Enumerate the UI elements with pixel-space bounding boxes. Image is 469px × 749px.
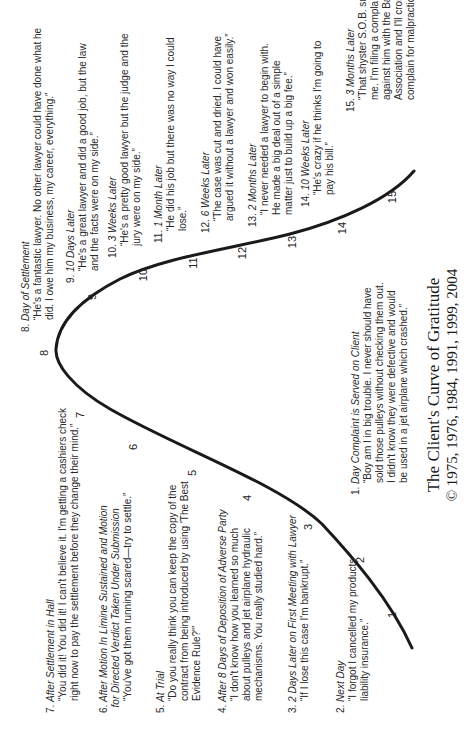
annotation-timing: After 8 Days of Deposition of Adverse Pa… bbox=[217, 509, 228, 702]
annotation-heading: 1. Day Complaint is Served on Client bbox=[350, 282, 362, 495]
annotation-quote: “You did it! You did it! I can't believe… bbox=[57, 408, 81, 713]
annotation-number: 14. bbox=[300, 190, 311, 207]
annotation-item: 2. Next Day“I forgot I cancelled my prod… bbox=[335, 559, 371, 713]
curve-point-number: 11 bbox=[188, 257, 199, 268]
annotation-timing: Day of Settlement bbox=[20, 241, 31, 320]
annotation-number: 7. bbox=[45, 702, 56, 713]
annotation-number: 10. bbox=[107, 241, 118, 258]
annotation-heading: 15. 3 Months Later bbox=[345, 0, 357, 112]
annotation-timing: Day Complaint is Served on Client bbox=[350, 332, 361, 484]
annotation-heading: 2. Next Day bbox=[335, 559, 347, 713]
annotation-timing: 6 Weeks Later bbox=[200, 152, 211, 216]
annotation-heading: 9. 10 Days Later bbox=[65, 43, 77, 283]
annotation-heading: 14. 10 Weeks Later bbox=[300, 41, 312, 207]
annotation-heading: 12. 6 Weeks Later bbox=[200, 33, 212, 233]
annotation-quote: “Do you really think you can keep the co… bbox=[167, 481, 203, 713]
annotation-number: 6. bbox=[98, 702, 109, 713]
diagram-title: The Client's Curve of Gratitude bbox=[425, 265, 443, 505]
annotation-item: 6. After Motion In Limine Sustained and … bbox=[98, 493, 134, 713]
annotation-quote: “I forgot I cancelled my products liabil… bbox=[347, 559, 371, 713]
annotation-number: 9. bbox=[65, 272, 76, 283]
annotation-item: 5. At Trial“Do you really think you can … bbox=[155, 481, 203, 713]
annotation-item: 15. 3 Months Later“That shyster S.O.B. s… bbox=[345, 0, 417, 112]
annotation-item: 12. 6 Weeks Later“The case was cut and d… bbox=[200, 33, 236, 233]
annotation-number: 1. bbox=[350, 484, 361, 495]
annotation-timing: 3 Months Later bbox=[345, 29, 356, 96]
annotation-number: 15. bbox=[345, 95, 356, 112]
annotation-number: 3. bbox=[287, 702, 298, 713]
annotation-item: 10. 3 Weeks Later“He's a pretty good law… bbox=[107, 33, 143, 258]
annotation-quote: “He's a pretty good lawyer but the judge… bbox=[119, 33, 143, 258]
curve-point-number: 12 bbox=[237, 247, 248, 259]
annotation-number: 2. bbox=[335, 702, 346, 713]
annotation-item: 13. 2 Months Later“I never needed a lawy… bbox=[247, 43, 295, 227]
annotation-number: 8. bbox=[20, 321, 31, 332]
annotation-quote: “I never needed a lawyer to begin with. … bbox=[259, 43, 295, 227]
annotation-quote: “Boy am I in big trouble. I never should… bbox=[362, 282, 410, 495]
curve-point-number: 9 bbox=[87, 294, 98, 300]
annotation-quote: “I don't know how you learned so much ab… bbox=[229, 509, 265, 713]
annotation-timing: 2 Months Later bbox=[247, 144, 258, 211]
gratitude-curve-diagram: 123456789101112131415 1. Day Complaint i… bbox=[0, 0, 469, 749]
annotation-heading: 11. 1 Month Later bbox=[153, 38, 165, 243]
annotation-heading: 3. 2 Days Later on First Meeting with La… bbox=[287, 515, 299, 713]
annotation-item: 1. Day Complaint is Served on Client“Boy… bbox=[350, 282, 410, 495]
curve-point-number: 4 bbox=[242, 495, 253, 501]
annotation-number: 12. bbox=[200, 216, 211, 233]
annotation-timing: At Trial bbox=[155, 671, 166, 702]
annotation-timing: After Settlement in Hall bbox=[45, 600, 56, 702]
annotation-quote: “He did his job but there was no way I c… bbox=[165, 38, 189, 243]
annotation-item: 7. After Settlement in Hall“You did it! … bbox=[45, 408, 81, 713]
annotation-timing: 10 Weeks Later bbox=[300, 120, 311, 190]
curve-point-number: 15 bbox=[387, 191, 398, 203]
curve-point-number: 10 bbox=[138, 269, 149, 281]
curve-point-number: 8 bbox=[39, 350, 50, 356]
annotation-item: 4. After 8 Days of Deposition of Adverse… bbox=[217, 509, 265, 713]
annotation-timing: 10 Days Later bbox=[65, 210, 76, 272]
annotation-quote: “The case was cut and dried. I could hav… bbox=[212, 33, 236, 233]
annotation-heading: 6. After Motion In Limine Sustained and … bbox=[98, 493, 122, 713]
annotation-quote: “He's a great lawyer and did a good job,… bbox=[77, 43, 101, 283]
annotation-quote: “If I lose this case I'm bankrupt.” bbox=[299, 515, 311, 713]
curve-point-number: 5 bbox=[187, 470, 198, 476]
annotation-item: 8. Day of Settlement“He's a fantastic la… bbox=[20, 28, 56, 332]
annotation-heading: 5. At Trial bbox=[155, 481, 167, 713]
annotation-number: 11. bbox=[153, 227, 164, 243]
annotation-number: 13. bbox=[247, 210, 258, 227]
annotation-quote: “He's crazy if he thinks I'm going to pa… bbox=[312, 41, 336, 207]
annotation-timing: 3 Weeks Later bbox=[107, 177, 118, 241]
annotation-heading: 7. After Settlement in Hall bbox=[45, 408, 57, 713]
annotation-timing: 1 Month Later bbox=[153, 165, 164, 227]
annotation-heading: 13. 2 Months Later bbox=[247, 43, 259, 227]
annotation-number: 4. bbox=[217, 702, 228, 713]
annotation-heading: 4. After 8 Days of Deposition of Adverse… bbox=[217, 509, 229, 713]
curve-point-number: 1 bbox=[387, 612, 398, 618]
annotation-item: 3. 2 Days Later on First Meeting with La… bbox=[287, 515, 311, 713]
annotation-item: 14. 10 Weeks Later“He's crazy if he thin… bbox=[300, 41, 336, 207]
annotation-item: 11. 1 Month Later“He did his job but the… bbox=[153, 38, 189, 243]
copyright-line: © 1975, 1976, 1984, 1991, 1999, 2004 bbox=[444, 265, 460, 505]
annotation-quote: “He's a fantastic lawyer. No other lawye… bbox=[32, 28, 56, 332]
annotation-timing: After Motion In Limine Sustained and Mot… bbox=[98, 505, 121, 713]
annotation-number: 5. bbox=[155, 702, 166, 713]
curve-point-number: 13 bbox=[287, 236, 298, 248]
annotation-timing: Next Day bbox=[335, 661, 346, 702]
annotation-quote: “You've got them running scared—try to s… bbox=[122, 493, 134, 713]
annotation-quote: “That shyster S.O.B. sued me. I'm filing… bbox=[357, 0, 417, 112]
annotation-heading: 10. 3 Weeks Later bbox=[107, 33, 119, 258]
annotation-heading: 8. Day of Settlement bbox=[20, 28, 32, 332]
annotation-timing: 2 Days Later on First Meeting with Lawye… bbox=[287, 515, 298, 702]
curve-point-number: 6 bbox=[128, 444, 139, 450]
curve-point-number: 14 bbox=[337, 222, 348, 234]
annotation-item: 9. 10 Days Later“He's a great lawyer and… bbox=[65, 43, 101, 283]
